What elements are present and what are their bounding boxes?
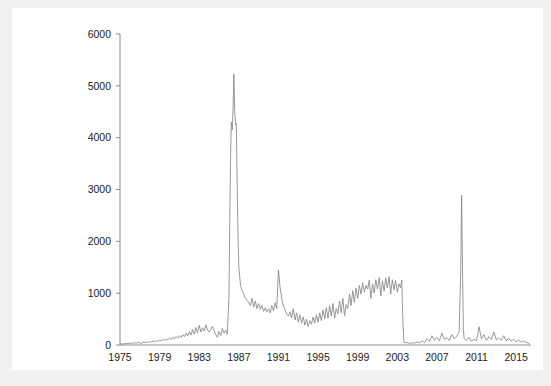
x-tick-label: 1983	[188, 351, 212, 363]
x-tick-label: 1987	[227, 351, 251, 363]
x-tick-label: 2003	[386, 351, 410, 363]
y-tick-label: 5000	[88, 80, 112, 92]
x-tick-label: 2011	[465, 351, 488, 363]
x-tick-label: 1979	[148, 351, 172, 363]
x-tick-label: 1991	[267, 351, 291, 363]
x-tick-label: 1999	[346, 351, 370, 363]
screenshot-root: 0100020003000400050006000 19751979198319…	[0, 0, 551, 386]
y-tick-label: 0	[105, 339, 111, 351]
time-series-chart: 0100020003000400050006000 19751979198319…	[12, 8, 543, 370]
y-tick-label: 3000	[88, 183, 112, 195]
x-tick-label: 1975	[108, 351, 132, 363]
y-tick-label: 1000	[88, 287, 112, 299]
x-tick-label: 2007	[425, 351, 449, 363]
chart-plot-area: 0100020003000400050006000 19751979198319…	[12, 8, 543, 370]
x-axis: 1975197919831987199119951999200320072011…	[108, 345, 531, 363]
x-tick-label: 2015	[504, 351, 528, 363]
y-axis: 0100020003000400050006000	[88, 28, 120, 351]
y-tick-label: 4000	[88, 131, 112, 143]
y-tick-label: 6000	[88, 28, 112, 40]
chart-card: 0100020003000400050006000 19751979198319…	[12, 8, 543, 370]
x-tick-label: 1995	[306, 351, 330, 363]
series-line	[120, 74, 529, 344]
y-tick-label: 2000	[88, 235, 112, 247]
